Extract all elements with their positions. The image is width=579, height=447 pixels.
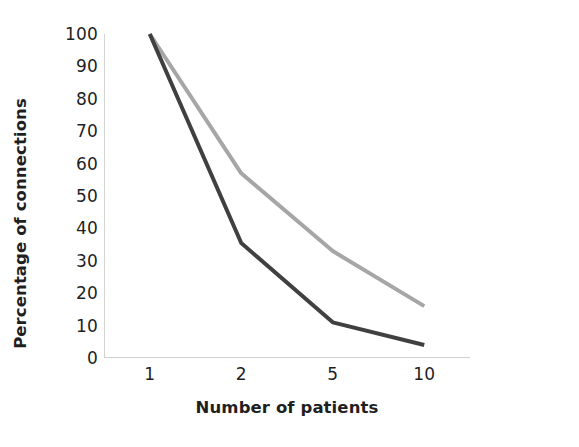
plot-area — [104, 34, 470, 358]
y-axis-tick-labels: 0102030405060708090100 — [40, 34, 98, 358]
y-tick-label: 40 — [40, 220, 98, 237]
series-line-light-gray-series — [150, 34, 425, 306]
x-tick-label: 1 — [144, 366, 155, 383]
y-tick-label: 10 — [40, 317, 98, 334]
y-tick-label: 30 — [40, 252, 98, 269]
line-chart: Percentage of connections 01020304050607… — [0, 0, 579, 447]
y-tick-label: 100 — [40, 26, 98, 43]
y-axis-title: Percentage of connections — [0, 0, 40, 447]
y-tick-label: 80 — [40, 90, 98, 107]
x-tick-label: 10 — [413, 366, 435, 383]
series-line-dark-gray-series — [150, 34, 425, 345]
x-axis-tick-labels: 12510 — [104, 366, 470, 390]
y-tick-label: 0 — [40, 350, 98, 367]
series-lines — [104, 34, 470, 358]
y-tick-label: 50 — [40, 188, 98, 205]
x-tick-label: 2 — [236, 366, 247, 383]
y-tick-label: 60 — [40, 155, 98, 172]
y-tick-label: 20 — [40, 285, 98, 302]
y-tick-label: 90 — [40, 58, 98, 75]
x-tick-label: 5 — [327, 366, 338, 383]
y-tick-label: 70 — [40, 123, 98, 140]
x-axis-title: Number of patients — [104, 398, 470, 417]
